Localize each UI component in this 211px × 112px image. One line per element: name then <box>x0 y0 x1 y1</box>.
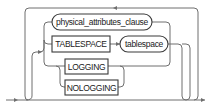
branch-top-track <box>40 22 52 52</box>
svg-text:NOLOGGING: NOLOGGING <box>67 83 117 93</box>
node-tablespace-keyword: TABLESPACE <box>52 36 110 52</box>
node-logging: LOGGING <box>65 59 108 74</box>
exit-arrow-icon <box>201 98 205 102</box>
branch-tablespace-track <box>44 40 52 48</box>
svg-text:physical_attributes_clause: physical_attributes_clause <box>56 17 148 27</box>
svg-text:tablespace: tablespace <box>125 39 164 49</box>
entry-arrow-icon <box>14 98 18 102</box>
svg-text:TABLESPACE: TABLESPACE <box>55 39 107 49</box>
connector-arrow-icon <box>116 42 120 46</box>
collect-tablespace-track <box>168 44 186 100</box>
syntax-diagram: physical_attributes_clause TABLESPACE ta… <box>0 0 211 112</box>
loop-back-arrow-icon <box>113 6 117 10</box>
choice-exit-track <box>182 44 190 100</box>
svg-text:LOGGING: LOGGING <box>68 62 106 72</box>
node-tablespace-name: tablespace <box>120 36 168 52</box>
node-nologging: NOLOGGING <box>65 80 118 95</box>
choice-entry-track <box>26 52 40 100</box>
nologging-branch-track <box>56 66 65 87</box>
node-physical-attributes-clause: physical_attributes_clause <box>52 14 152 30</box>
